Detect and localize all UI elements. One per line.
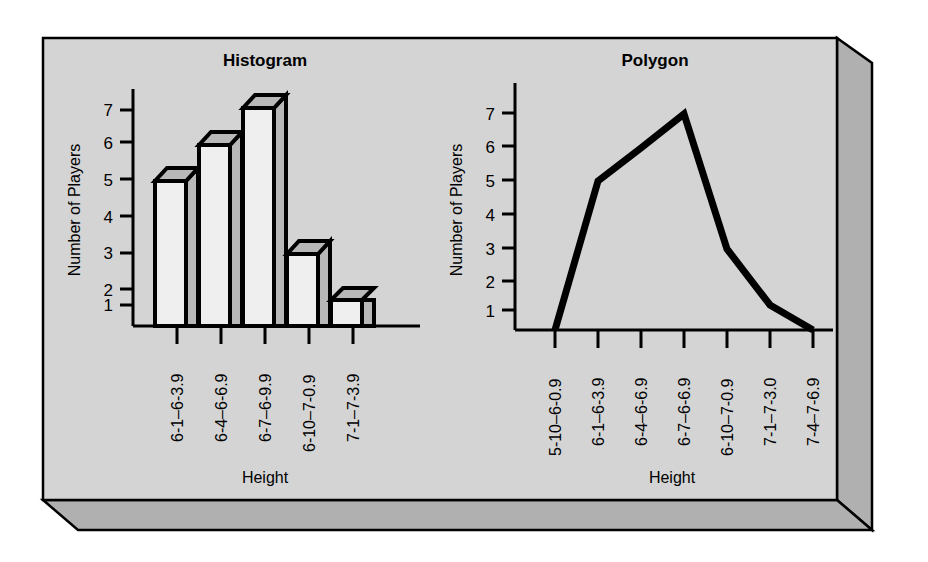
histogram-ytick-6: 6	[104, 134, 113, 153]
histogram-cat-label: 6-7–6-9.9	[257, 373, 274, 442]
polygon-cat-label: 6-10–7-0.9	[719, 379, 736, 456]
polygon-ytick-3: 3	[486, 240, 495, 259]
histogram-ytick-5: 5	[104, 171, 113, 190]
histogram-ytick-7: 7	[104, 101, 113, 120]
polygon-cat-label: 6-7–6-6.9	[676, 377, 693, 446]
bar-front	[199, 145, 230, 326]
bar-front	[243, 108, 274, 326]
polygon-cat-label: 5-10–6-0.9	[547, 379, 564, 456]
histogram-ytick-3: 3	[104, 244, 113, 263]
polygon-ytick-2: 2	[486, 273, 495, 292]
figure-root: Histogram 7 6 5 4 3 2	[0, 0, 928, 562]
polygon-x-axis-title: Height	[649, 469, 696, 486]
polygon-ytick-4: 4	[486, 206, 495, 225]
histogram-bar	[155, 168, 198, 326]
bar-front	[155, 181, 186, 326]
polygon-cat-label: 6-1–6-3.9	[590, 377, 607, 446]
histogram-bar	[287, 241, 330, 326]
polygon-cat-label: 6-4–6-6.9	[633, 377, 650, 446]
histogram-y-axis-title: Number of Players	[66, 144, 83, 277]
polygon-y-tick-labels: 7 6 5 4 3 2 1	[486, 105, 495, 321]
polygon-ytick-7: 7	[486, 105, 495, 124]
polygon-ytick-5: 5	[486, 172, 495, 191]
histogram-ytick-1: 1	[104, 296, 113, 315]
histogram-cat-label: 6-1–6-3.9	[169, 373, 186, 442]
polygon-y-axis-title: Number of Players	[448, 144, 465, 277]
polygon-ytick-1: 1	[486, 302, 495, 321]
histogram-bar	[199, 132, 242, 326]
bar-front	[287, 254, 318, 326]
combined-charts-figure: Histogram 7 6 5 4 3 2	[0, 0, 928, 562]
polygon-cat-label: 7-1–7-3.0	[762, 377, 779, 446]
histogram-bar	[331, 288, 374, 326]
bar-front	[331, 300, 362, 326]
histogram-cat-label: 7-1–7-3.9	[345, 373, 362, 442]
panel-right-face	[837, 38, 872, 530]
histogram-ytick-4: 4	[104, 208, 113, 227]
polygon-cat-label: 7-4–7-6.9	[805, 377, 822, 446]
histogram-bar	[243, 95, 286, 326]
panel-bottom-face	[43, 500, 872, 530]
histogram-cat-label: 6-10–7-0.9	[301, 375, 318, 452]
polygon-title: Polygon	[621, 51, 688, 70]
histogram-title: Histogram	[223, 51, 307, 70]
histogram-y-tick-labels: 7 6 5 4 3 2 1	[104, 101, 113, 315]
histogram-x-axis-title: Height	[242, 469, 289, 486]
polygon-ytick-6: 6	[486, 138, 495, 157]
histogram-cat-label: 6-4–6-6.9	[213, 373, 230, 442]
